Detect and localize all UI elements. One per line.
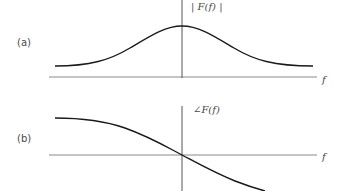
- panel-b-label: (b): [17, 133, 31, 144]
- panel-b-y-axis-label: ∠F(f): [193, 104, 220, 115]
- panel-a-label: (a): [17, 37, 31, 48]
- panel-a-y-axis-label: | F(f) |: [191, 1, 223, 12]
- figure-graphics: [0, 0, 338, 191]
- panel-a-magnitude-curve: [55, 26, 313, 66]
- panel-b-x-axis-label: f: [322, 151, 326, 162]
- figure: (a) | F(f) | f (b) ∠F(f) f: [0, 0, 338, 191]
- panel-a-x-axis-label: f: [322, 74, 326, 85]
